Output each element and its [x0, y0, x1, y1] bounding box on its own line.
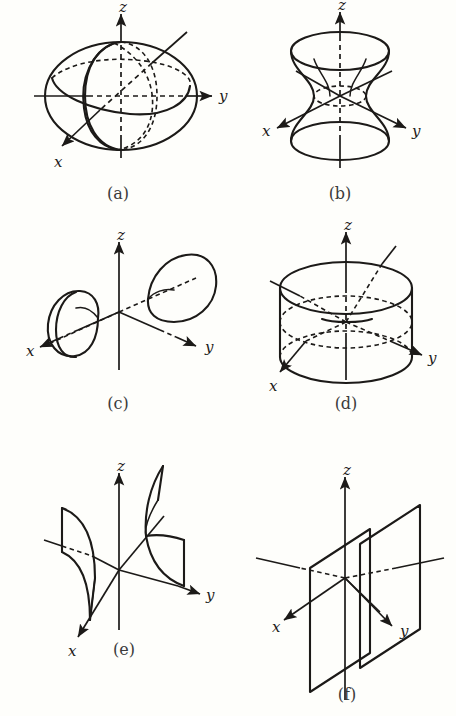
panel-f-label-z: z: [342, 461, 351, 479]
figure-background: [0, 0, 456, 716]
panel-f-label-y: y: [399, 622, 409, 640]
panel-c-label-x: x: [26, 342, 35, 360]
panel-b-label-z: z: [337, 0, 346, 14]
panel-c-caption: (c): [107, 394, 128, 413]
panel-c-label-z: z: [116, 226, 125, 244]
quadric-surfaces-figure: y z x (a) y: [0, 0, 456, 716]
panel-f-caption: (f): [338, 685, 356, 704]
panel-b-caption: (b): [329, 184, 352, 203]
panel-a-label-y: y: [218, 87, 228, 105]
panel-c-label-y: y: [204, 338, 214, 356]
panel-d-label-z: z: [343, 216, 352, 234]
panel-d-label-y: y: [427, 349, 437, 367]
panel-a-label-z: z: [118, 0, 127, 16]
panel-a-caption: (a): [107, 184, 129, 203]
panel-a-label-x: x: [54, 153, 63, 171]
panel-e-caption: (e): [113, 640, 135, 659]
panel-e-label-z: z: [116, 457, 125, 475]
panel-b-label-x: x: [262, 122, 271, 140]
panel-b-label-y: y: [411, 122, 421, 140]
panel-d-caption: (d): [335, 394, 358, 413]
panel-f-label-x: x: [272, 618, 281, 636]
panel-e-label-y: y: [205, 586, 215, 604]
panel-e-label-x: x: [68, 642, 77, 660]
panel-d-label-x: x: [269, 377, 278, 395]
